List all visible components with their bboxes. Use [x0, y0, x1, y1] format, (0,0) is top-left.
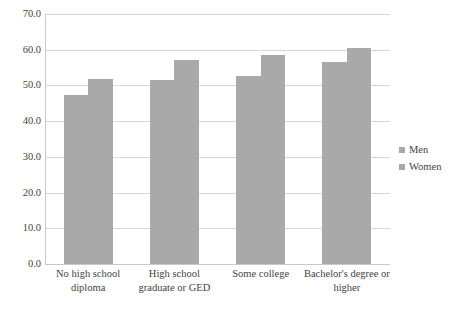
y-axis-tick-label: 60.0 [3, 45, 41, 55]
y-axis-tick-label: 0.0 [3, 259, 41, 269]
bar [322, 62, 347, 265]
legend-swatch-icon [399, 147, 405, 153]
x-axis-category-label: Bachelor's degree orhigher [297, 267, 397, 294]
y-axis-tick-label: 30.0 [3, 152, 41, 162]
legend-swatch-icon [399, 164, 405, 170]
y-axis-tick-label: 50.0 [3, 80, 41, 90]
y-axis-tick-labels: 0.010.020.030.040.050.060.070.0 [0, 0, 41, 318]
y-axis-tick-label: 10.0 [3, 223, 41, 233]
bar [347, 48, 372, 264]
x-axis-category-labels: No high schooldiplomaHigh schoolgraduate… [45, 267, 390, 315]
bar [64, 95, 89, 264]
x-axis-category-label: High schoolgraduate or GED [124, 267, 224, 294]
y-axis-tick-label: 70.0 [3, 9, 41, 19]
legend-label: Men [409, 144, 428, 155]
y-axis-tick-label: 20.0 [3, 188, 41, 198]
x-axis-category-label-line: Some college [211, 267, 311, 281]
legend-label: Women [409, 161, 441, 172]
bar [174, 60, 199, 264]
x-axis-category-label: Some college [211, 267, 311, 281]
x-axis-line [45, 264, 390, 265]
bars-layer [45, 14, 390, 264]
bar [150, 80, 175, 264]
x-axis-category-label: No high schooldiploma [38, 267, 138, 294]
legend-item[interactable]: Women [399, 158, 455, 175]
bar-chart: 0.010.020.030.040.050.060.070.0 No high … [0, 0, 455, 318]
x-axis-category-label-line: Bachelor's degree or [297, 267, 397, 281]
y-axis-tick-label: 40.0 [3, 116, 41, 126]
legend-item[interactable]: Men [399, 141, 455, 158]
bar [236, 76, 261, 264]
x-axis-category-label-line: higher [297, 281, 397, 295]
x-axis-category-label-line: graduate or GED [124, 281, 224, 295]
legend: MenWomen [399, 141, 455, 175]
x-axis-category-label-line: High school [124, 267, 224, 281]
x-axis-category-label-line: diploma [38, 281, 138, 295]
bar [88, 79, 113, 264]
bar [261, 55, 286, 264]
x-axis-category-label-line: No high school [38, 267, 138, 281]
